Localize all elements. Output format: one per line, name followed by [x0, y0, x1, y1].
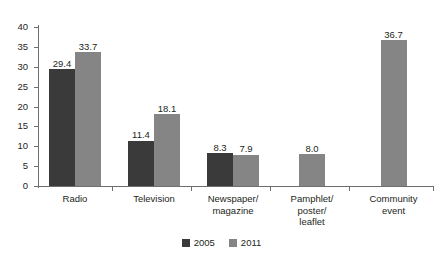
x-category-label-television: Television — [117, 193, 191, 205]
bar-value-label: 7.9 — [239, 144, 252, 154]
y-tick-label: 0 — [23, 181, 28, 191]
category-line: Radio — [38, 193, 112, 205]
bar-group-television: 11.4 18.1 — [117, 27, 191, 186]
y-tick-label: 25 — [17, 82, 28, 92]
bar-community-2011: 36.7 — [381, 40, 407, 186]
bar-group-pamphlet-poster-leaflet: 8.0 — [275, 27, 349, 186]
x-category-label-radio: Radio — [38, 193, 112, 205]
y-tick-label: 20 — [17, 102, 28, 112]
bar-radio-2011: 33.7 — [75, 52, 101, 186]
category-line: poster/ — [275, 205, 349, 217]
legend-swatch-icon — [182, 239, 190, 247]
x-category-label-newspaper-magazine: Newspaper/ magazine — [196, 193, 270, 216]
bar-group-radio: 29.4 33.7 — [38, 27, 112, 186]
y-tick-label: 10 — [17, 141, 28, 151]
bar-group-community-event: 36.7 — [354, 27, 433, 186]
x-axis-line — [38, 186, 434, 187]
x-category-label-pamphlet-poster-leaflet: Pamphlet/ poster/ leaflet — [275, 193, 349, 228]
bar-television-2011: 18.1 — [154, 114, 180, 186]
category-line: event — [354, 205, 433, 217]
category-line: Newspaper/ — [196, 193, 270, 205]
bar-radio-2005: 29.4 — [49, 69, 75, 186]
chart-legend: 2005 2011 — [0, 238, 443, 248]
bar-value-label: 8.3 — [213, 143, 226, 153]
category-line: magazine — [196, 205, 270, 217]
legend-item-2011: 2011 — [229, 238, 261, 248]
category-line: leaflet — [275, 216, 349, 228]
category-line: Pamphlet/ — [275, 193, 349, 205]
category-line: Television — [117, 193, 191, 205]
category-line: Community — [354, 193, 433, 205]
y-tick-label: 35 — [17, 42, 28, 52]
x-category-label-community-event: Community event — [354, 193, 433, 216]
bar-pamphlet-2011: 8.0 — [299, 154, 325, 186]
bar-value-label: 11.4 — [132, 130, 150, 140]
y-tick-label: 5 — [23, 161, 28, 171]
bar-value-label: 29.4 — [53, 59, 72, 69]
bar-chart: 0 5 10 15 20 25 30 35 40 29.4 33.7 — [0, 0, 443, 261]
bar-value-label: 33.7 — [79, 42, 98, 52]
bar-newspaper-2005: 8.3 — [207, 153, 233, 186]
legend-label: 2005 — [194, 238, 215, 248]
bar-value-label: 18.1 — [158, 104, 177, 114]
bar-value-label: 36.7 — [384, 30, 403, 40]
bar-television-2005: 11.4 — [128, 141, 154, 186]
bar-group-newspaper-magazine: 8.3 7.9 — [196, 27, 270, 186]
legend-item-2005: 2005 — [182, 238, 215, 248]
y-tick-label: 30 — [17, 62, 28, 72]
bar-value-label: 8.0 — [305, 144, 318, 154]
legend-label: 2011 — [241, 238, 261, 248]
y-tick-label: 15 — [17, 122, 28, 132]
plot-area: 29.4 33.7 11.4 18.1 8.3 — [38, 27, 433, 186]
bar-newspaper-2011: 7.9 — [233, 155, 259, 186]
legend-swatch-icon — [229, 239, 237, 247]
y-tick-label: 40 — [17, 22, 28, 32]
